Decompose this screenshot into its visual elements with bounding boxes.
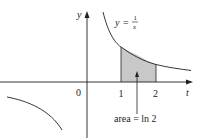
x-axis-label: t <box>186 87 189 98</box>
y-axis-label: y <box>76 9 82 20</box>
function-denominator: x <box>132 23 137 31</box>
origin-label: 0 <box>76 87 81 98</box>
tick-label-1: 1 <box>119 88 124 99</box>
y-axis-arrow-icon <box>85 11 90 18</box>
curve-left-branch <box>7 97 62 130</box>
function-numerator: 1 <box>134 14 138 22</box>
function-label-y: y <box>114 17 120 28</box>
area-annotation: area = ln 2 <box>114 113 157 124</box>
function-label-eq: = <box>123 17 129 28</box>
tick-label-2: 2 <box>153 88 158 99</box>
graph-svg: y t 0 1 2 y = 1 x area = ln 2 <box>0 0 202 138</box>
graph-figure: y t 0 1 2 y = 1 x area = ln 2 <box>0 0 202 138</box>
x-axis-arrow-icon <box>186 80 193 85</box>
